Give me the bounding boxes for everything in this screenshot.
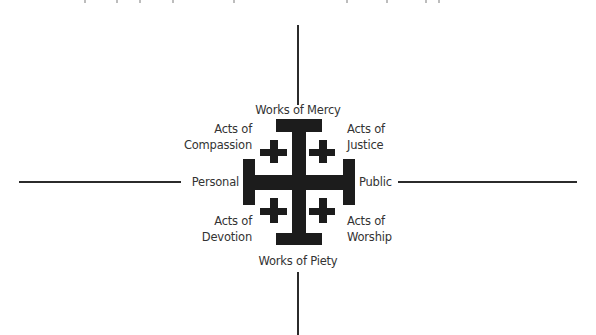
label-personal: Personal bbox=[170, 174, 239, 190]
label-public: Public bbox=[359, 174, 419, 190]
cross-horizontal-arm bbox=[243, 175, 355, 190]
label-acts-of-justice: Acts of Justice bbox=[347, 121, 427, 153]
label-line-1: Acts of bbox=[347, 121, 427, 137]
small-cross-top-left-v bbox=[270, 140, 278, 163]
label-acts-of-compassion: Acts of Compassion bbox=[170, 121, 252, 153]
label-line-1: Acts of bbox=[170, 213, 252, 229]
label-works-of-piety: Works of Piety bbox=[246, 253, 350, 269]
label-line-2: Justice bbox=[347, 137, 427, 153]
label-line-2: Compassion bbox=[170, 137, 252, 153]
label-works-of-mercy: Works of Mercy bbox=[246, 102, 350, 118]
cross-left-bar bbox=[243, 159, 255, 205]
label-line-2: Devotion bbox=[170, 229, 252, 245]
small-cross-bottom-right-v bbox=[319, 198, 327, 223]
cross-right-bar bbox=[343, 159, 355, 205]
label-acts-of-devotion: Acts of Devotion bbox=[170, 213, 252, 245]
jerusalem-cross-icon bbox=[0, 0, 596, 335]
small-cross-bottom-left-v bbox=[270, 198, 278, 223]
small-cross-top-right-v bbox=[319, 140, 327, 163]
label-acts-of-worship: Acts of Worship bbox=[347, 213, 427, 245]
label-line-1: Acts of bbox=[347, 213, 427, 229]
label-line-2: Worship bbox=[347, 229, 427, 245]
cross-bottom-bar bbox=[276, 233, 322, 245]
label-line-1: Acts of bbox=[170, 121, 252, 137]
